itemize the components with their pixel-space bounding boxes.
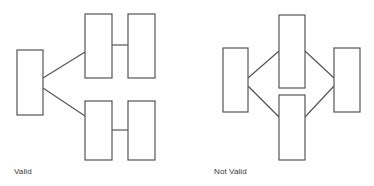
valid-left-to-bottom-middle-edge <box>43 88 85 116</box>
diagram-canvas: Valid Not Valid <box>0 0 374 186</box>
not-valid-left-node[interactable] <box>223 48 248 112</box>
valid-bottom-middle-node[interactable] <box>85 101 112 160</box>
valid-left-to-top-middle-edge <box>43 52 85 78</box>
valid-diagram-group <box>17 14 155 160</box>
not-valid-bottom-middle-node[interactable] <box>279 95 305 160</box>
not-valid-left-to-bottom-middle-edge <box>248 86 279 117</box>
not-valid-bottom-middle-to-right-edge <box>305 86 334 117</box>
diagram-figure <box>0 0 374 186</box>
valid-nodes-group <box>17 14 155 160</box>
not-valid-right-node[interactable] <box>334 48 360 112</box>
not-valid-nodes-group <box>223 15 360 160</box>
valid-bottom-right-node[interactable] <box>128 101 155 160</box>
valid-diagram-caption: Valid <box>14 167 32 177</box>
not-valid-diagram-caption: Not Valid <box>214 167 247 177</box>
not-valid-top-middle-to-right-edge <box>305 51 334 78</box>
not-valid-top-middle-node[interactable] <box>279 15 305 88</box>
valid-top-middle-node[interactable] <box>85 14 112 78</box>
not-valid-diagram-group <box>223 15 360 160</box>
not-valid-left-to-top-middle-edge <box>248 51 279 78</box>
valid-top-right-node[interactable] <box>128 14 155 78</box>
valid-left-node[interactable] <box>17 50 43 115</box>
